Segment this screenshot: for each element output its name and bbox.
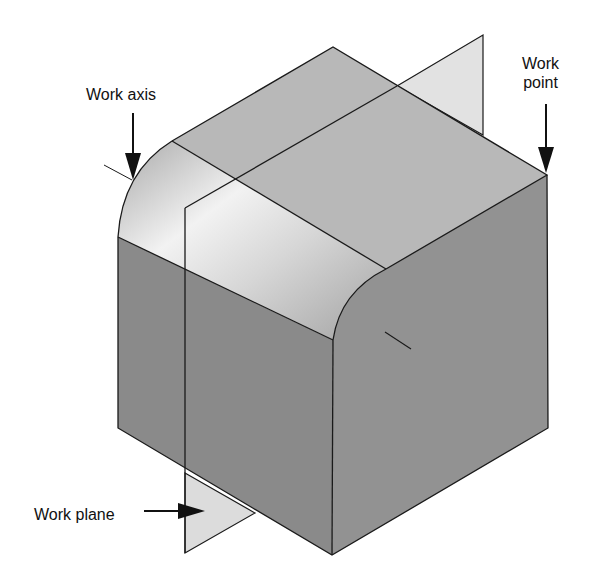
work-point-label-line2: point xyxy=(522,73,559,92)
work-point-label: Work point xyxy=(522,54,559,92)
work-point-label-line1: Work xyxy=(522,54,559,73)
work-axis-label: Work axis xyxy=(86,85,156,104)
work-axis-arrow xyxy=(125,113,141,180)
work-plane-label: Work plane xyxy=(34,505,115,524)
work-point-arrow xyxy=(538,104,554,173)
